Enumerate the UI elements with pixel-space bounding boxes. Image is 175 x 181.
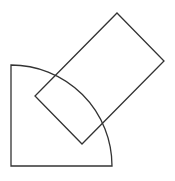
quarter-circle-sector: [11, 65, 112, 166]
rotated-rectangle: [35, 13, 164, 144]
geometry-diagram: [0, 0, 175, 181]
